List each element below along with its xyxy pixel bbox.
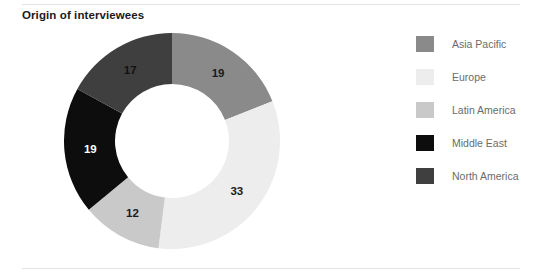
legend-item-label: Asia Pacific — [452, 36, 506, 52]
legend-swatch-icon — [416, 102, 434, 118]
legend-item-label: Middle East — [452, 135, 507, 151]
legend-item[interactable]: Europe — [416, 69, 542, 85]
slice-value-label: 19 — [84, 143, 97, 155]
donut-svg: 1933121917 — [64, 33, 280, 249]
legend-item-label: Latin America — [452, 102, 516, 118]
legend-swatch-icon — [416, 69, 434, 85]
slice-value-label: 17 — [124, 64, 137, 76]
chart-figure: Origin of interviewees 1933121917 Asia P… — [0, 0, 542, 280]
page-title: Origin of interviewees — [22, 9, 144, 21]
donut-slices — [64, 33, 280, 249]
bottom-divider — [22, 268, 520, 269]
legend-item-label: North America — [452, 168, 519, 184]
legend-swatch-icon — [416, 36, 434, 52]
legend-item[interactable]: Latin America — [416, 102, 542, 118]
legend-item[interactable]: Middle East — [416, 135, 542, 151]
slice-value-label: 19 — [212, 67, 225, 79]
legend-item[interactable]: North America — [416, 168, 542, 184]
donut-chart: 1933121917 — [64, 33, 280, 249]
donut-slice[interactable] — [158, 101, 280, 249]
legend-swatch-icon — [416, 168, 434, 184]
slice-value-label: 12 — [126, 207, 139, 219]
legend-swatch-icon — [416, 135, 434, 151]
legend-item[interactable]: Asia Pacific — [416, 36, 542, 52]
chart-legend: Asia PacificEuropeLatin AmericaMiddle Ea… — [416, 36, 542, 201]
top-divider — [22, 4, 520, 5]
slice-value-label: 33 — [230, 185, 243, 197]
legend-item-label: Europe — [452, 69, 486, 85]
